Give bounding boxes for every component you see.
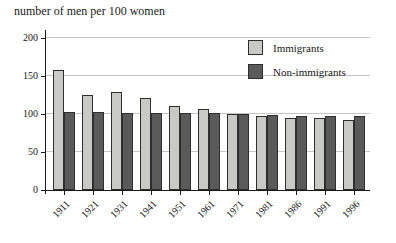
x-tick-1921 bbox=[93, 191, 94, 195]
legend-swatch-icon bbox=[248, 64, 263, 79]
bar-immigrants-1986 bbox=[285, 118, 296, 190]
bar-non-immigrants-1931 bbox=[122, 113, 133, 190]
bar-immigrants-1981 bbox=[256, 116, 267, 190]
x-tick-1951 bbox=[180, 191, 181, 195]
bar-non-immigrants-1951 bbox=[180, 113, 191, 190]
y-tick-label-0: 0 bbox=[6, 184, 38, 196]
legend-label: Non-immigrants bbox=[273, 66, 346, 78]
y-tick-label-150: 150 bbox=[6, 70, 38, 82]
x-tick-1961 bbox=[209, 191, 210, 195]
bar-immigrants-1996 bbox=[343, 120, 354, 190]
x-tick-1941 bbox=[151, 191, 152, 195]
bar-non-immigrants-1961 bbox=[209, 113, 220, 190]
x-tick-1981 bbox=[267, 191, 268, 195]
x-tick-1911 bbox=[64, 191, 65, 195]
y-tick-label-50: 50 bbox=[6, 146, 38, 158]
bar-non-immigrants-1971 bbox=[238, 114, 249, 190]
bar-immigrants-1991 bbox=[314, 118, 325, 190]
bar-non-immigrants-1941 bbox=[151, 113, 162, 190]
legend-swatch-icon bbox=[248, 40, 263, 55]
legend-item-immigrants: Immigrants bbox=[248, 40, 346, 55]
chart-title: number of men per 100 women bbox=[14, 4, 165, 19]
x-tick-1991 bbox=[325, 191, 326, 195]
x-tick-1971 bbox=[238, 191, 239, 195]
legend-label: Immigrants bbox=[273, 42, 324, 54]
x-tick-1996 bbox=[354, 191, 355, 195]
bar-immigrants-1911 bbox=[53, 70, 64, 190]
bar-non-immigrants-1996 bbox=[354, 116, 365, 190]
bar-non-immigrants-1986 bbox=[296, 116, 307, 190]
bar-immigrants-1961 bbox=[198, 109, 209, 190]
y-tick-label-200: 200 bbox=[6, 32, 38, 44]
bar-immigrants-1941 bbox=[140, 98, 151, 190]
legend-item-non-immigrants: Non-immigrants bbox=[248, 64, 346, 79]
bar-immigrants-1951 bbox=[169, 106, 180, 190]
gridline-200 bbox=[46, 37, 370, 38]
x-tick-1986 bbox=[296, 191, 297, 195]
bar-immigrants-1921 bbox=[82, 95, 93, 190]
bar-immigrants-1931 bbox=[111, 92, 122, 190]
bar-non-immigrants-1981 bbox=[267, 115, 278, 190]
legend: ImmigrantsNon-immigrants bbox=[248, 40, 346, 88]
bar-non-immigrants-1911 bbox=[64, 112, 75, 190]
y-tick-label-100: 100 bbox=[6, 108, 38, 120]
bar-non-immigrants-1991 bbox=[325, 116, 336, 190]
y-axis-line bbox=[45, 30, 46, 194]
bar-chart: number of men per 100 women 050100150200… bbox=[0, 0, 396, 243]
x-tick-1931 bbox=[122, 191, 123, 195]
bar-immigrants-1971 bbox=[227, 114, 238, 190]
bar-non-immigrants-1921 bbox=[93, 112, 104, 190]
